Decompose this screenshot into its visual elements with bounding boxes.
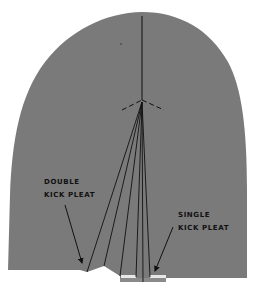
pleat-underlay-right [150,275,166,278]
double-kick-pleat-label: DOUBLE KICK PLEAT [44,176,95,202]
pleat-underlay-left [121,275,136,278]
skirt-pattern-diagram [0,0,257,301]
double-kick-pleat-label-line2: KICK PLEAT [44,189,95,202]
single-kick-pleat-label-line2: KICK PLEAT [178,222,229,235]
single-kick-pleat-label: SINGLE KICK PLEAT [178,209,229,235]
single-kick-pleat-label-line1: SINGLE [178,209,229,222]
double-kick-pleat-label-line1: DOUBLE [44,176,95,189]
fabric-speck [120,43,122,45]
